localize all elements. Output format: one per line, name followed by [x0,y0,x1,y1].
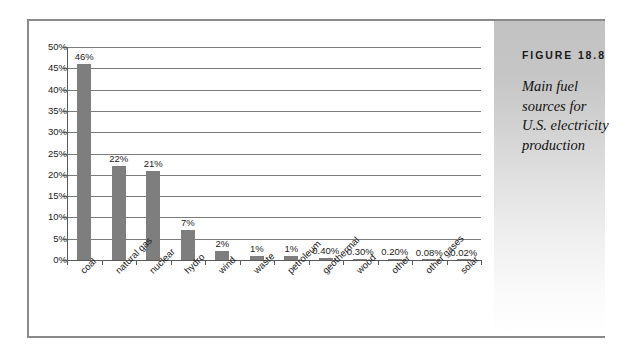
gridline [67,217,481,218]
bar-column[interactable] [146,47,160,260]
x-axis-tick-mark [309,260,310,265]
gridline [67,47,481,48]
bar-column[interactable] [284,47,298,260]
y-axis: 0%5%10%15%20%25%30%35%40%45%50% [29,21,67,336]
bar-column[interactable] [319,47,333,260]
x-axis-tick-mark [67,260,68,265]
bar-column[interactable] [77,47,91,260]
bar-column[interactable] [215,47,229,260]
x-axis-tick-mark [240,260,241,265]
y-axis-tick-label: 25% [33,149,67,159]
y-axis-tick-label: 10% [33,212,67,222]
gridline [67,68,481,69]
x-axis-tick-mark [343,260,344,265]
x-axis-tick-mark [274,260,275,265]
bar-column[interactable] [457,47,471,260]
gridline [67,111,481,112]
x-axis-tick-mark [412,260,413,265]
gridline [67,239,481,240]
bar[interactable] [77,64,91,260]
x-axis-tick-mark [205,260,206,265]
y-axis-line [67,47,68,261]
y-axis-tick-label: 40% [33,85,67,95]
x-axis-tick-mark [378,260,379,265]
bar-value-label: 21% [130,158,176,169]
bar-value-label: 7% [165,217,211,228]
x-axis-tick-mark [171,260,172,265]
bar-value-label: 46% [61,51,107,62]
bar-chart: 0%5%10%15%20%25%30%35%40%45%50% 46%22%21… [29,21,494,336]
figure-root: 0%5%10%15%20%25%30%35%40%45%50% 46%22%21… [0,0,629,357]
y-axis-tick-label: 15% [33,191,67,201]
bar-column[interactable] [250,47,264,260]
figure-frame: 0%5%10%15%20%25%30%35%40%45%50% 46%22%21… [27,19,605,338]
bar-column[interactable] [422,47,436,260]
y-axis-tick-label: 5% [33,234,67,244]
bar[interactable] [112,166,126,260]
gridline [67,175,481,176]
figure-number-label: FIGURE 18.8 [522,49,606,61]
gridline [67,132,481,133]
y-axis-tick-label: 30% [33,127,67,137]
gridline [67,196,481,197]
y-axis-tick-label: 0% [33,255,67,265]
caption-panel: FIGURE 18.8 Main fuel sources for U.S. e… [494,21,605,336]
x-axis-tick-mark [447,260,448,265]
y-axis-tick-label: 45% [33,63,67,73]
x-axis-tick-mark [136,260,137,265]
x-axis-tick-mark [102,260,103,265]
bar-column[interactable] [353,47,367,260]
y-axis-tick-label: 20% [33,170,67,180]
x-axis-tick-mark [481,260,482,265]
plot-area: 46%22%21%7%2%1%1%0.40%0.30%0.20%0.08%0.0… [67,47,481,260]
gridline [67,90,481,91]
y-axis-tick-label: 35% [33,106,67,116]
figure-caption: Main fuel sources for U.S. electricity p… [522,77,614,155]
bar-column[interactable] [388,47,402,260]
